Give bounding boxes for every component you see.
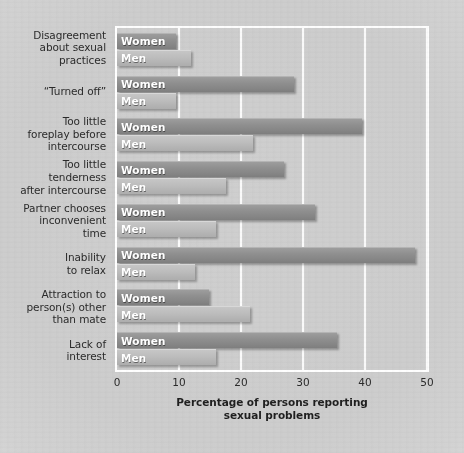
bar-series-label: Men (117, 309, 147, 321)
bar-series-label: Women (117, 78, 166, 90)
bar-series-label: Women (117, 206, 166, 218)
bar-slot: Women (117, 33, 427, 49)
bar-series-label: Women (117, 121, 166, 133)
bar-series-label: Women (117, 164, 166, 176)
bar-series-label: Men (117, 352, 147, 364)
bar-slot: Women (117, 118, 427, 134)
category-label: Too littletendernessafter intercourse (6, 156, 110, 199)
bar-slot: Men (117, 349, 427, 365)
x-axis-tick-label: 10 (172, 376, 185, 388)
category-label-line: “Turned off” (44, 85, 106, 98)
bar-slot: Women (117, 204, 427, 220)
bar-men: Men (117, 178, 226, 194)
bar-series-label: Men (117, 181, 147, 193)
bar-women: Women (117, 204, 315, 220)
bar-series-label: Men (117, 52, 147, 64)
x-axis-title: Percentage of persons reporting sexual p… (110, 396, 434, 422)
bar-group: WomenMen (117, 71, 427, 114)
bar-men: Men (117, 264, 195, 280)
bar-slot: Women (117, 76, 427, 92)
category-label-line: to relax (67, 264, 106, 277)
bar-slot: Men (117, 50, 427, 66)
bar-group: WomenMen (117, 327, 427, 370)
bar-slot: Men (117, 93, 427, 109)
bar-slot: Men (117, 306, 427, 322)
bar-men: Men (117, 306, 250, 322)
bar-group: WomenMen (117, 114, 427, 157)
category-label: Too littleforeplay beforeintercourse (6, 113, 110, 156)
category-label-line: Disagreement (33, 29, 106, 42)
x-axis-tick-label: 20 (234, 376, 247, 388)
category-label: Partner choosesinconvenienttime (6, 199, 110, 242)
category-label-line: time (83, 227, 106, 240)
bar-group: WomenMen (117, 285, 427, 328)
bar-slot: Women (117, 289, 427, 305)
category-label-line: Lack of (69, 338, 106, 351)
bar-series-label: Men (117, 223, 147, 235)
category-label-line: intercourse (48, 140, 106, 153)
category-label-line: after intercourse (20, 184, 106, 197)
bar-slot: Men (117, 135, 427, 151)
category-label: Disagreementabout sexualpractices (6, 26, 110, 69)
bar-women: Women (117, 118, 362, 134)
category-label-line: tenderness (48, 171, 106, 184)
category-label-line: person(s) other (27, 301, 106, 314)
x-axis-title-line1: Percentage of persons reporting (110, 396, 434, 409)
x-axis-tick-label: 40 (358, 376, 371, 388)
category-label-line: interest (67, 350, 106, 363)
x-axis-tick-label: 30 (296, 376, 309, 388)
x-axis-tick-label: 50 (420, 376, 433, 388)
category-label-line: foreplay before (27, 128, 106, 141)
bar-men: Men (117, 135, 253, 151)
category-label: “Turned off” (6, 69, 110, 112)
bar-slot: Women (117, 247, 427, 263)
category-label-line: Attraction to (42, 288, 106, 301)
bar-series-label: Men (117, 138, 147, 150)
bar-group: WomenMen (117, 28, 427, 71)
category-label-line: inconvenient (39, 214, 106, 227)
bar-group: WomenMen (117, 242, 427, 285)
category-label-line: about sexual (40, 41, 106, 54)
category-label: Inabilityto relax (6, 242, 110, 285)
bar-series-label: Women (117, 35, 166, 47)
category-label-line: Inability (65, 251, 106, 264)
bar-men: Men (117, 93, 176, 109)
category-label-line: practices (59, 54, 106, 67)
category-label-line: than mate (52, 313, 106, 326)
bar-slot: Men (117, 221, 427, 237)
bar-women: Women (117, 33, 176, 49)
x-axis-title-line2: sexual problems (110, 409, 434, 422)
category-axis-labels: Disagreementabout sexualpractices“Turned… (6, 26, 110, 372)
bar-women: Women (117, 332, 337, 348)
category-label: Attraction toperson(s) otherthan mate (6, 286, 110, 329)
bar-men: Men (117, 349, 216, 365)
bar-men: Men (117, 50, 191, 66)
bar-women: Women (117, 247, 415, 263)
bar-series-label: Men (117, 266, 147, 278)
bar-slot: Women (117, 332, 427, 348)
bar-women: Women (117, 76, 294, 92)
bar-series-label: Women (117, 335, 166, 347)
bar-groups: WomenMenWomenMenWomenMenWomenMenWomenMen… (117, 28, 427, 370)
category-label: Lack ofinterest (6, 329, 110, 372)
plot-area: WomenMenWomenMenWomenMenWomenMenWomenMen… (115, 26, 429, 372)
bar-group: WomenMen (117, 199, 427, 242)
bar-men: Men (117, 221, 216, 237)
category-label-line: Partner chooses (23, 202, 106, 215)
bar-series-label: Women (117, 292, 166, 304)
bar-women: Women (117, 161, 284, 177)
x-axis-tick-labels: 01020304050 (115, 376, 429, 392)
bar-series-label: Men (117, 95, 147, 107)
bar-women: Women (117, 289, 209, 305)
x-axis-tick-label: 0 (114, 376, 121, 388)
chart-figure: Disagreementabout sexualpractices“Turned… (0, 0, 464, 453)
bar-group: WomenMen (117, 156, 427, 199)
bar-slot: Men (117, 178, 427, 194)
bar-slot: Men (117, 264, 427, 280)
bar-series-label: Women (117, 249, 166, 261)
bar-slot: Women (117, 161, 427, 177)
category-label-line: Too little (63, 115, 106, 128)
category-label-line: Too little (63, 158, 106, 171)
